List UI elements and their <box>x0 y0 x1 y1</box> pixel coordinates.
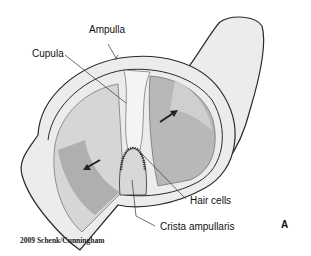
panel-letter: A <box>281 219 288 230</box>
diagram-canvas: Ampulla Cupula Hair cells Crista ampulla… <box>0 0 311 256</box>
copyright-credit: 2009 Schenk/Cunningham <box>20 236 104 245</box>
label-crista-ampullaris: Crista ampullaris <box>160 222 234 232</box>
label-hair-cells: Hair cells <box>190 196 231 206</box>
ampulla-illustration <box>0 0 311 256</box>
label-ampulla: Ampulla <box>89 25 125 35</box>
label-cupula: Cupula <box>32 49 64 59</box>
